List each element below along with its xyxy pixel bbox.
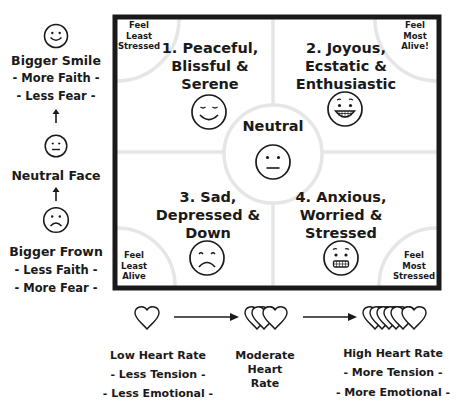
high-heart-rate-label: High Heart Rate — [328, 347, 458, 360]
less-emotional-label: - Less Emotional - — [98, 387, 218, 400]
low-heart-rate-label: Low Heart Rate — [98, 349, 218, 362]
center-neutral-title: Neutral — [226, 118, 320, 134]
quadrant-3-title: 3. Sad,Depressed &Down — [148, 188, 268, 242]
peaceful-face-icon — [190, 93, 228, 131]
less-tension-label: - Less Tension - — [98, 368, 218, 381]
heart-icon-moderate — [245, 307, 287, 329]
anxious-face-icon — [322, 239, 360, 277]
sad-face-icon — [188, 239, 226, 277]
quadrant-1-title: 1. Peaceful,Blissful &Serene — [150, 39, 270, 93]
heart-icon-low — [135, 307, 159, 329]
more-emotional-label: - More Emotional - — [328, 386, 458, 399]
quadrant-4-title: 4. Anxious,Worried &Stressed — [281, 188, 401, 242]
heart-rate-icons — [0, 300, 460, 340]
joyous-face-icon — [326, 90, 364, 128]
corner-label-least-alive: FeelLeastAlive — [117, 250, 151, 282]
arrow-right-icon — [303, 313, 357, 321]
heart-icon-high — [363, 307, 426, 329]
moderate-heart-rate-label: Moderate Heart Rate — [230, 349, 300, 391]
more-tension-label: - More Tension - — [328, 366, 458, 379]
corner-label-most-stressed: FeelMostStressed — [391, 250, 437, 282]
quadrant-2-title: 2. Joyous,Ecstatic &Enthusiastic — [286, 39, 406, 93]
arrow-right-icon — [174, 313, 239, 321]
neutral-face-icon — [254, 143, 292, 181]
